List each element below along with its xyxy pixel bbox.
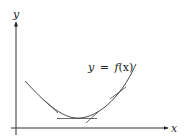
function-label: y = f(x): [87, 61, 133, 74]
y-axis-label: y: [12, 8, 20, 21]
tangent-line-right: [110, 87, 126, 99]
tangent-line-left: [44, 100, 58, 113]
convex-function-diagram: x y y = f(x): [0, 0, 187, 140]
x-axis-label: x: [171, 122, 178, 135]
